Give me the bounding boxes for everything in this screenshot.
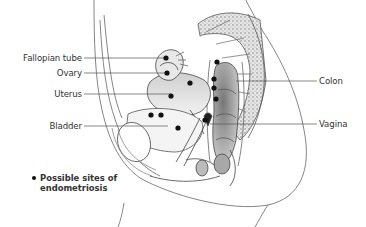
- legend-dot-icon: [32, 176, 36, 180]
- bladder: [112, 108, 203, 176]
- label-colon: Colon: [319, 76, 343, 86]
- label-vagina: Vagina: [319, 119, 347, 129]
- label-fallopian-tube: Fallopian tube: [23, 53, 82, 63]
- legend-line-1: Possible sites of: [40, 173, 117, 183]
- colon: [207, 60, 244, 166]
- label-ovary: Ovary: [57, 68, 82, 78]
- legend-text: Possible sites of endometriosis: [40, 173, 117, 193]
- endometriosis-diagram: Fallopian tube Ovary Uterus Bladder Colo…: [0, 0, 366, 227]
- legend-line-2: endometriosis: [40, 183, 107, 193]
- label-uterus: Uterus: [54, 89, 82, 99]
- label-bladder: Bladder: [49, 121, 82, 131]
